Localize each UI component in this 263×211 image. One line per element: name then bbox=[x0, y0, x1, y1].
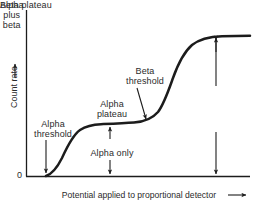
annotation-alpha-plateau: Alpha plateau bbox=[90, 99, 134, 119]
annotation-alpha-only: Alpha only bbox=[86, 148, 138, 158]
annotation-alpha-plus-beta: Alpha plus beta bbox=[0, 0, 24, 30]
annotation-alpha-threshold: Alpha threshold bbox=[29, 119, 77, 139]
x-axis-label: Potential applied to proportional detect… bbox=[32, 190, 246, 200]
beta-threshold-arrow bbox=[137, 88, 146, 119]
proportional-detector-plateau-figure: 0 Count rate Potential applied to propor… bbox=[0, 0, 263, 211]
origin-label: 0 bbox=[17, 170, 22, 180]
response-curve bbox=[46, 36, 250, 176]
y-axis-label: Count rate bbox=[9, 57, 19, 117]
annotation-beta-threshold: Beta threshold bbox=[123, 66, 167, 86]
